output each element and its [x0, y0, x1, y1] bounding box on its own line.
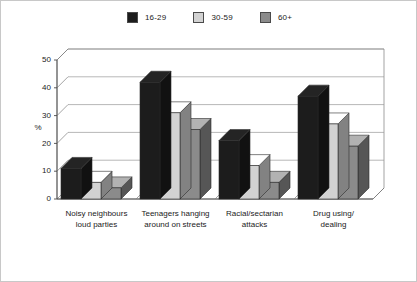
- legend-swatch-60-plus: [260, 12, 271, 23]
- category-label: attacks: [242, 220, 267, 229]
- y-tick-label: 20: [42, 139, 51, 148]
- category-label: Teenagers hanging: [141, 209, 209, 218]
- legend-label-30-59: 30-59: [211, 14, 232, 22]
- legend-entry-16-29: 16-29: [127, 12, 166, 23]
- category-label: Drug using/: [313, 209, 355, 218]
- category-label: dealing: [321, 220, 347, 229]
- category-label: Racial/sectarian: [226, 209, 283, 218]
- category-label: Noisy neighbours: [66, 209, 128, 218]
- legend-label-60-plus: 60+: [278, 14, 292, 22]
- y-tick-label: 50: [42, 55, 51, 64]
- chart-svg: 01020304050%Noisy neighboursloud parties…: [30, 37, 390, 247]
- legend-label-16-29: 16-29: [145, 14, 166, 22]
- chart-figure: 16-29 30-59 60+ 01020304050%Noisy neighb…: [0, 0, 417, 282]
- y-tick-label: 40: [42, 83, 51, 92]
- y-tick-label: 10: [42, 166, 51, 175]
- bar-1629-cat0: [61, 157, 92, 199]
- y-tick-label: 30: [42, 111, 51, 120]
- legend-swatch-30-59: [193, 12, 204, 23]
- y-axis-title: %: [34, 123, 41, 132]
- legend-entry-60-plus: 60+: [260, 12, 292, 23]
- category-label: around on streets: [144, 220, 206, 229]
- bar-1629-cat2: [219, 130, 250, 199]
- chart-legend: 16-29 30-59 60+: [1, 12, 417, 23]
- category-label: loud parties: [76, 220, 117, 229]
- bar-1629-cat1: [140, 71, 171, 199]
- legend-swatch-16-29: [127, 12, 138, 23]
- y-tick-label: 0: [47, 194, 52, 203]
- legend-entry-30-59: 30-59: [193, 12, 232, 23]
- bar-1629-cat3: [298, 85, 329, 199]
- chart-plot-area: 01020304050%Noisy neighboursloud parties…: [30, 37, 390, 247]
